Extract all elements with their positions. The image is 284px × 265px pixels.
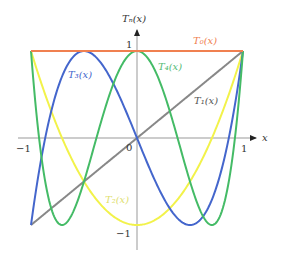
tick-x-1: 1 — [241, 143, 247, 154]
label-t2: T₂(x) — [105, 194, 129, 205]
tick-x-neg1: −1 — [16, 143, 31, 154]
label-t4: T₄(x) — [158, 61, 182, 72]
tick-y-neg1: −1 — [116, 228, 131, 239]
y-axis-label: Tₙ(x) — [122, 13, 146, 24]
label-t0: T₀(x) — [193, 35, 217, 46]
tick-x-0: 0 — [126, 142, 132, 153]
tick-y-1: 1 — [126, 39, 132, 50]
label-t3: T₃(x) — [68, 69, 92, 80]
x-axis-label: x — [262, 132, 268, 143]
chebyshev-chart: Tₙ(x) x −1 0 1 1 −1 T₀(x) T₁(x) T₂(x) T₃… — [0, 0, 284, 265]
label-t1: T₁(x) — [194, 95, 218, 106]
